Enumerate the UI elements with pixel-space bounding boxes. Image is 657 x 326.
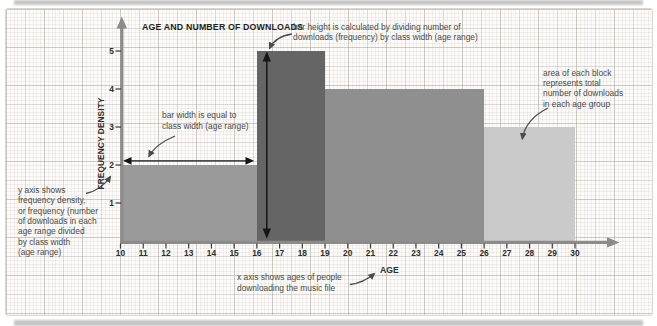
x-tick-label: 28 bbox=[519, 248, 541, 258]
x-tick-label: 19 bbox=[314, 248, 336, 258]
x-tick-label: 22 bbox=[382, 248, 404, 258]
x-tick-label: 18 bbox=[291, 248, 313, 258]
y-tick-label: 4 bbox=[96, 84, 114, 94]
labels-layer: AGE AND NUMBER OF DOWNLOADS FREQUENCY DE… bbox=[0, 0, 657, 326]
x-tick-label: 15 bbox=[223, 248, 245, 258]
x-tick-label: 10 bbox=[110, 248, 132, 258]
y-axis-title: FREQUENCY DENSITY bbox=[96, 98, 107, 190]
x-tick-label: 23 bbox=[405, 248, 427, 258]
x-tick-label: 16 bbox=[246, 248, 268, 258]
x-tick-label: 13 bbox=[178, 248, 200, 258]
annotation-area: area of each block represents total numb… bbox=[543, 68, 653, 110]
annotation-bar-height: bar height is calculated by dividing num… bbox=[293, 22, 523, 44]
x-tick-label: 25 bbox=[450, 248, 472, 258]
x-tick-label: 27 bbox=[496, 248, 518, 258]
annotation-y-axis: y axis shows frequency density, or frequ… bbox=[18, 185, 133, 257]
y-tick-label: 2 bbox=[96, 160, 114, 170]
x-tick-label: 21 bbox=[359, 248, 381, 258]
x-tick-label: 17 bbox=[269, 248, 291, 258]
y-tick-label: 5 bbox=[96, 46, 114, 56]
x-tick-label: 20 bbox=[337, 248, 359, 258]
x-tick-label: 12 bbox=[155, 248, 177, 258]
x-tick-label: 26 bbox=[473, 248, 495, 258]
annotation-x-axis: x axis shows ages of people downloading … bbox=[237, 272, 387, 294]
x-tick-label: 14 bbox=[200, 248, 222, 258]
x-tick-label: 30 bbox=[564, 248, 586, 258]
x-tick-label: 29 bbox=[541, 248, 563, 258]
annotation-bar-width: bar width is equal to class width (age r… bbox=[162, 110, 292, 132]
y-tick-label: 3 bbox=[96, 122, 114, 132]
x-tick-label: 24 bbox=[428, 248, 450, 258]
histogram-infographic: AGE AND NUMBER OF DOWNLOADS FREQUENCY DE… bbox=[0, 0, 657, 326]
chart-title: AGE AND NUMBER OF DOWNLOADS bbox=[142, 22, 303, 32]
x-tick-label: 11 bbox=[132, 248, 154, 258]
y-tick-label: 1 bbox=[96, 198, 114, 208]
